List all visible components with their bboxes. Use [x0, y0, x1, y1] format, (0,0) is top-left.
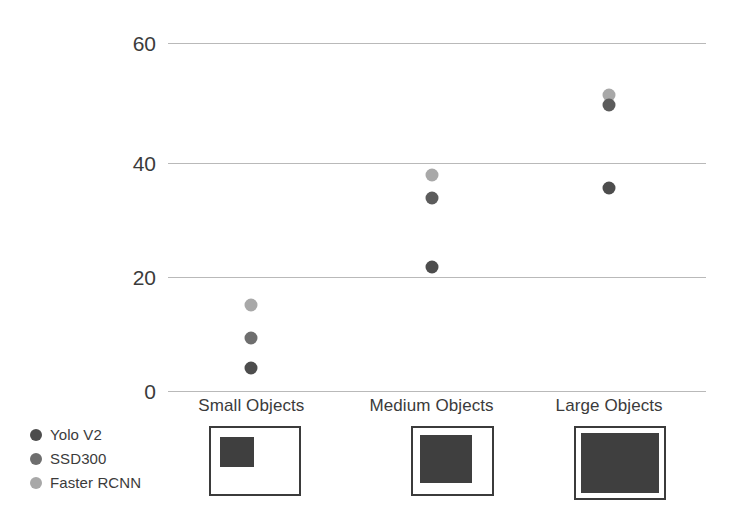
object-size-illustrations: [0, 0, 735, 525]
medium-object-illustration: [411, 426, 494, 496]
small-object-box: [220, 437, 254, 467]
scatter-chart: 60 40 20 0 Small Objects Medium Objects …: [0, 0, 735, 525]
large-object-illustration: [574, 426, 666, 500]
small-object-illustration: [209, 426, 301, 496]
medium-object-box: [420, 435, 472, 483]
large-object-box: [581, 433, 659, 493]
